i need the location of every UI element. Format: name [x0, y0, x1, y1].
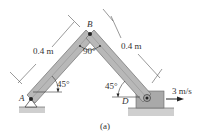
angle-label-d: 45° — [105, 81, 118, 91]
angle-arc-d — [118, 81, 125, 97]
linkage-diagram: B A D 0.4 m 0.4 m 90° 45° 45° 3 m/s (a) — [0, 0, 218, 140]
label-d: D — [121, 96, 129, 106]
angle-label-a: 45° — [57, 79, 70, 89]
label-b: B — [87, 19, 93, 29]
figure-caption: (a) — [100, 121, 110, 131]
label-a: A — [18, 93, 25, 103]
velocity-label: 3 m/s — [172, 86, 192, 96]
ground-a — [19, 107, 45, 113]
dimension-left-label: 0.4 m — [33, 46, 54, 56]
ground-d — [128, 108, 174, 116]
angle-label-b: 90° — [83, 46, 96, 56]
pin-b — [88, 32, 92, 36]
pin-a — [29, 97, 33, 101]
arrowhead-icon — [177, 97, 184, 102]
dimension-right-label: 0.4 m — [121, 41, 142, 51]
